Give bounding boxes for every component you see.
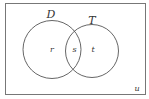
venn-diagram: D T r s t u bbox=[0, 0, 149, 99]
region-s-label: s bbox=[72, 45, 76, 54]
region-t-label: t bbox=[91, 45, 95, 54]
universe-label: u bbox=[134, 84, 139, 93]
set-d-label: D bbox=[46, 8, 56, 21]
region-r-label: r bbox=[50, 45, 55, 54]
